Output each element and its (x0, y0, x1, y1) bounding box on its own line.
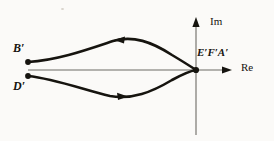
lower-contour-curve (28, 70, 196, 97)
scan-speck-artifact (61, 8, 64, 10)
complex-plane-figure: B′ D′ E′F′A′ Im Re (0, 0, 274, 141)
label-b-prime: B′ (13, 42, 24, 54)
imaginary-axis-label: Im (210, 16, 222, 27)
label-efa-prime: E′F′A′ (197, 47, 228, 58)
lower-contour-direction-arrowhead (117, 93, 128, 100)
real-axis-arrowhead (222, 66, 232, 73)
point-marker-d-prime (25, 73, 31, 79)
upper-contour-direction-arrowhead (114, 36, 125, 43)
imaginary-axis-arrowhead (192, 17, 199, 27)
point-marker-b-prime (25, 59, 31, 65)
point-marker-efa-prime (193, 67, 199, 73)
upper-contour-curve (28, 39, 196, 70)
figure-drawing-canvas (0, 0, 274, 141)
label-d-prime: D′ (13, 80, 25, 92)
real-axis-label: Re (241, 62, 253, 73)
